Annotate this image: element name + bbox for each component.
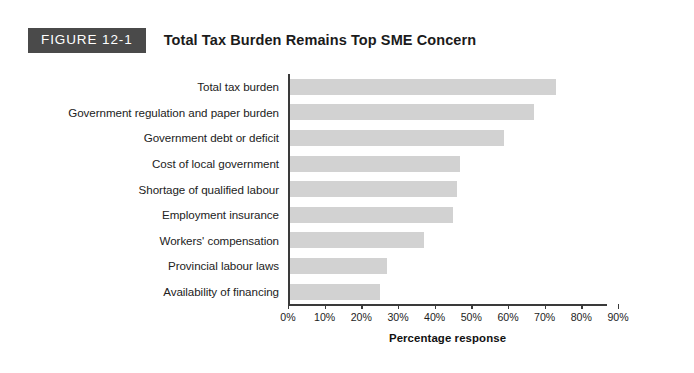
bar: [288, 104, 534, 120]
category-label: Total tax burden: [40, 80, 288, 93]
figure-header: FIGURE 12-1 Total Tax Burden Remains Top…: [28, 28, 476, 53]
bar-series: Total tax burdenGovernment regulation an…: [40, 74, 640, 304]
x-axis-tick-label: 10%: [314, 311, 335, 323]
x-axis-tick: [435, 304, 436, 309]
x-axis-tick-label: 60%: [497, 311, 518, 323]
bar: [288, 207, 453, 223]
category-label: Provincial labour laws: [40, 259, 288, 272]
y-axis-line: [288, 74, 290, 304]
bar-track: [288, 176, 618, 202]
x-axis-tick: [471, 304, 472, 309]
bar-row: Shortage of qualified labour: [40, 176, 640, 202]
x-axis-tick: [581, 304, 582, 309]
bar-row: Availability of financing: [40, 279, 640, 305]
x-axis-tick: [398, 304, 399, 309]
category-label: Employment insurance: [40, 208, 288, 221]
x-axis-tick: [361, 304, 362, 309]
bar: [288, 130, 504, 146]
bar-track: [288, 151, 618, 177]
bar: [288, 284, 380, 300]
bar-track: [288, 253, 618, 279]
x-axis-tick-label: 40%: [424, 311, 445, 323]
x-axis-tick: [545, 304, 546, 309]
x-axis-tick-label: 50%: [461, 311, 482, 323]
bar-track: [288, 100, 618, 126]
x-axis-tick-label: 80%: [571, 311, 592, 323]
bar: [288, 181, 457, 197]
bar-row: Government regulation and paper burden: [40, 100, 640, 126]
bar: [288, 156, 460, 172]
category-label: Workers' compensation: [40, 234, 288, 247]
category-label: Shortage of qualified labour: [40, 183, 288, 196]
bar-track: [288, 125, 618, 151]
bar-track: [288, 279, 618, 305]
bar: [288, 258, 387, 274]
figure-title: Total Tax Burden Remains Top SME Concern: [164, 32, 477, 48]
x-axis-tick: [288, 304, 289, 309]
bar-row: Total tax burden: [40, 74, 640, 100]
bar-row: Employment insurance: [40, 202, 640, 228]
bar: [288, 232, 424, 248]
x-axis-tick: [325, 304, 326, 309]
category-label: Government regulation and paper burden: [40, 106, 288, 119]
x-axis-tick: [618, 304, 619, 309]
x-axis-title: Percentage response: [288, 332, 607, 344]
x-axis-tick-label: 70%: [534, 311, 555, 323]
figure-container: FIGURE 12-1 Total Tax Burden Remains Top…: [0, 0, 694, 373]
bar-track: [288, 74, 618, 100]
x-axis-line: 0%10%20%30%40%50%60%70%80%90%: [288, 304, 607, 306]
bar-track: [288, 228, 618, 254]
bar-track: [288, 202, 618, 228]
x-axis-tick-label: 90%: [607, 311, 628, 323]
bar-row: Government debt or deficit: [40, 125, 640, 151]
bar-row: Workers' compensation: [40, 228, 640, 254]
category-label: Government debt or deficit: [40, 131, 288, 144]
category-label: Cost of local government: [40, 157, 288, 170]
x-axis-tick-label: 20%: [351, 311, 372, 323]
chart-area: Total tax burdenGovernment regulation an…: [0, 70, 694, 370]
bar-row: Provincial labour laws: [40, 253, 640, 279]
x-axis-tick: [508, 304, 509, 309]
bar: [288, 79, 556, 95]
category-label: Availability of financing: [40, 285, 288, 298]
x-axis-tick-label: 30%: [387, 311, 408, 323]
figure-number-badge: FIGURE 12-1: [28, 28, 146, 53]
x-axis-tick-label: 0%: [280, 311, 295, 323]
bar-row: Cost of local government: [40, 151, 640, 177]
